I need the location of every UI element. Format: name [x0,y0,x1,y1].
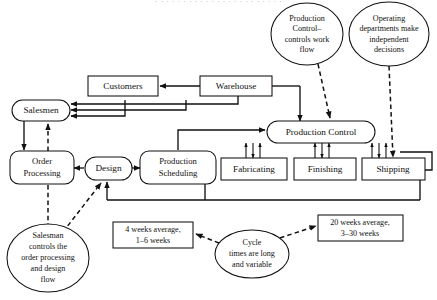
annotation-short-line-2: 1–6 weeks [136,236,170,245]
node-customers-label: Customers [103,81,143,91]
note-cycle-line-2: times are long [229,249,275,258]
note-cycle-line-1: Cycle [243,238,262,247]
note-pc-line-1: Production [289,14,325,23]
node-order-processing-label-1: Order [32,156,52,166]
node-warehouse[interactable]: Warehouse [200,76,272,96]
edge-warehouse-to-salesmen [71,96,238,104]
note-cycle-times: Cycle times are long and variable [215,230,289,278]
node-finishing[interactable]: Finishing [294,158,356,180]
note-salesman-line-3: order processing [21,253,75,262]
note-pc-line-4: flow [300,45,315,54]
node-design-label: Design [95,163,121,173]
note-operating-departments: Operating departments make independent d… [349,2,429,66]
node-production-control-label: Production Control [286,127,357,137]
note-salesman-controls: Salesman controls the order processing a… [7,224,89,292]
edge-pc-fabricating [246,143,260,158]
node-salesmen-label: Salesmen [23,105,59,115]
edge-pc-finishing [315,143,329,158]
node-customers[interactable]: Customers [88,76,158,96]
annotation-short-lead-time: 4 weeks average, 1–6 weeks [113,222,193,248]
note-dept-line-3: independent [369,35,409,44]
node-production-scheduling-label-2: Scheduling [159,168,198,178]
node-design[interactable]: Design [85,157,132,180]
annotation-long-lead-time: 20 weeks average, 3–30 weeks [318,215,403,241]
note-salesman-line-5: flow [41,275,56,284]
dashed-salesman-note-to-design [63,183,101,232]
note-cycle-line-3: and variable [232,260,272,269]
node-fabricating-label: Fabricating [233,164,275,174]
node-fabricating[interactable]: Fabricating [221,158,287,180]
node-finishing-label: Finishing [308,164,343,174]
dashed-cycle-to-long-leadtime [280,226,316,238]
note-dept-line-2: departments make [359,24,419,33]
diagram-canvas: · · · · · · · · · · · · · · · · · · · · … [0,0,437,300]
edge-design-to-salesmen [71,100,125,116]
edge-pc-shipping [372,143,386,158]
note-salesman-line-1: Salesman [32,231,63,240]
edge-scheduling-to-salesmen [71,100,186,110]
edge-scheduling-to-production-control [178,130,265,150]
annotation-long-line-1: 20 weeks average, [330,218,390,227]
note-pc-line-2: Control– [293,24,323,33]
annotation-long-line-2: 3–30 weeks [341,229,379,238]
dashed-cycle-to-short-leadtime [196,234,219,243]
annotation-short-line-1: 4 weeks average, [125,225,181,234]
note-salesman-line-2: controls the [29,242,67,251]
note-production-control: Production Control– controls work flow [271,3,343,65]
note-pc-line-3: controls work [285,35,331,44]
node-production-scheduling[interactable]: Production Scheduling [140,151,216,184]
note-salesman-line-4: and design [31,264,66,273]
note-dept-line-1: Operating [373,14,405,23]
note-dept-line-4: decisions [374,45,404,54]
node-order-processing[interactable]: Order Processing [10,151,74,184]
dashed-dept-note-to-shipping [389,66,393,157]
node-order-processing-label-2: Processing [23,168,61,178]
node-production-scheduling-label-1: Production [159,156,197,166]
node-shipping-label: Shipping [376,164,410,174]
dashed-pc-note-to-production-control [318,64,330,118]
node-shipping[interactable]: Shipping [362,158,425,180]
node-production-control[interactable]: Production Control [267,121,375,143]
flow-diagram-svg: Customers Warehouse Salesmen Order Proce… [0,0,437,300]
node-salesmen[interactable]: Salesmen [12,100,70,121]
node-warehouse-label: Warehouse [216,81,257,91]
